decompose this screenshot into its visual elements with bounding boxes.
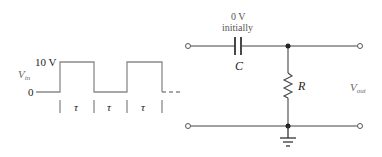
output-top-terminal: [358, 44, 363, 49]
cap-initial-note: initially: [222, 23, 253, 33]
resistor-label: R: [298, 80, 305, 92]
top-node-dot: [286, 44, 291, 49]
period-label-3: τ: [141, 102, 145, 113]
input-voltage-label: Vin: [18, 69, 30, 82]
input-bottom-terminal: [186, 124, 191, 129]
output-voltage-label: Vout: [350, 82, 366, 95]
period-label-1: τ: [74, 102, 78, 113]
input-top-terminal: [186, 44, 191, 49]
output-bottom-terminal: [358, 124, 363, 129]
high-voltage-label: 10 V: [35, 57, 57, 68]
capacitor-symbol: [235, 37, 241, 55]
capacitor-label: C: [235, 60, 243, 72]
ground-icon: [280, 126, 296, 146]
resistor-symbol: [284, 46, 292, 126]
low-voltage-label: 0: [28, 87, 34, 98]
cap-initial-voltage: 0 V: [231, 12, 246, 22]
rc-differentiator-diagram: 10 V 0 Vin τ τ τ 0 V initially C R Vout: [0, 0, 382, 157]
circuit-drawing: [0, 0, 382, 157]
period-label-2: τ: [107, 102, 111, 113]
